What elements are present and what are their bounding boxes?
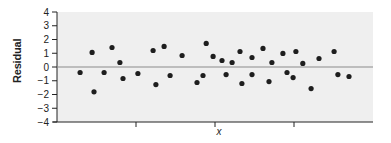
- data-point: [249, 55, 254, 60]
- data-point: [300, 61, 305, 66]
- data-point: [293, 49, 298, 54]
- data-point: [284, 70, 289, 75]
- y-tick-label: 0: [43, 62, 49, 73]
- y-tick-label: −4: [38, 117, 50, 128]
- data-point: [230, 60, 235, 65]
- data-point: [78, 70, 83, 75]
- data-point: [335, 72, 340, 77]
- data-point: [266, 79, 271, 84]
- y-tick-label: 4: [43, 7, 49, 18]
- data-point: [269, 60, 274, 65]
- data-point: [309, 86, 314, 91]
- data-point: [346, 74, 351, 79]
- plot-area: 43210−1−2−3−4: [0, 0, 391, 143]
- data-point: [109, 45, 114, 50]
- data-point: [316, 56, 321, 61]
- data-point: [280, 51, 285, 56]
- data-point: [211, 54, 216, 59]
- data-point: [153, 82, 158, 87]
- data-point: [239, 81, 244, 86]
- data-point: [135, 71, 140, 76]
- data-point: [260, 46, 265, 51]
- y-tick-label: −1: [38, 75, 50, 86]
- y-axis-ticks: 43210−1−2−3−4: [38, 7, 57, 128]
- y-tick-label: −3: [38, 103, 50, 114]
- data-point: [120, 76, 125, 81]
- y-tick-label: 1: [43, 48, 49, 59]
- data-point: [168, 73, 173, 78]
- data-point: [224, 72, 229, 77]
- data-point: [219, 58, 224, 63]
- data-point: [194, 80, 199, 85]
- data-point: [117, 60, 122, 65]
- data-point: [162, 44, 167, 49]
- data-point: [91, 89, 96, 94]
- data-point: [151, 48, 156, 53]
- data-point: [204, 41, 209, 46]
- residual-plot: 43210−1−2−3−4 Residual x: [0, 0, 391, 143]
- data-point: [102, 70, 107, 75]
- y-tick-label: 2: [43, 34, 49, 45]
- y-tick-label: 3: [43, 20, 49, 31]
- data-point: [237, 49, 242, 54]
- y-axis-label: Residual: [11, 49, 27, 83]
- data-point: [249, 72, 254, 77]
- data-point: [200, 73, 205, 78]
- data-point: [180, 53, 185, 58]
- y-tick-label: −2: [38, 89, 50, 100]
- data-point: [291, 75, 296, 80]
- data-point: [332, 49, 337, 54]
- data-point: [90, 50, 95, 55]
- x-axis-label: x: [213, 126, 225, 137]
